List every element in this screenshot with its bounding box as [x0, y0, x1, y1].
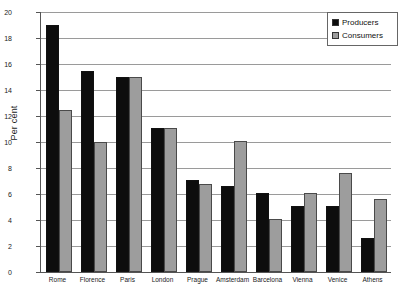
plot-area: [40, 12, 391, 273]
bar-chart: Per cent 02468101214161820 RomeFlorenceP…: [0, 0, 406, 299]
x-tick-label: Prague: [180, 276, 215, 283]
y-tick-label: 14: [0, 87, 12, 94]
bar-consumers-florence: [94, 142, 107, 272]
bar-consumers-athens: [374, 199, 387, 272]
bar-consumers-paris: [129, 77, 142, 272]
bar-consumers-vienna: [304, 193, 317, 272]
y-tick-label: 10: [0, 139, 12, 146]
x-axis-labels: RomeFlorenceParisLondonPragueAmsterdamBa…: [40, 276, 390, 283]
x-tick-label: Paris: [110, 276, 145, 283]
bar-producers-vienna: [291, 206, 304, 272]
bar-group: [76, 12, 111, 272]
bar-group: [41, 12, 76, 272]
x-tick-label: London: [145, 276, 180, 283]
x-tick-label: Venice: [320, 276, 355, 283]
x-tick-label: Amsterdam: [215, 276, 250, 283]
y-tick-label: 4: [0, 217, 12, 224]
bar-consumers-amsterdam: [234, 141, 247, 272]
gridline: [41, 272, 391, 273]
bar-group: [146, 12, 181, 272]
chart-legend: ProducersConsumers: [327, 12, 398, 46]
legend-label: Consumers: [342, 31, 383, 40]
bar-producers-paris: [116, 77, 129, 272]
bar-consumers-barcelona: [269, 219, 282, 272]
bar-group: [356, 12, 391, 272]
bar-producers-barcelona: [256, 193, 269, 272]
bar-groups: [41, 12, 391, 272]
bar-group: [251, 12, 286, 272]
bar-producers-amsterdam: [221, 186, 234, 272]
legend-item-consumers: Consumers: [332, 29, 393, 42]
legend-item-producers: Producers: [332, 16, 393, 29]
y-tick-label: 16: [0, 61, 12, 68]
bar-group: [321, 12, 356, 272]
y-tick-label: 6: [0, 191, 12, 198]
y-tick-label: 12: [0, 113, 12, 120]
x-tick-label: Vienna: [285, 276, 320, 283]
bar-producers-venice: [326, 206, 339, 272]
x-tick-label: Barcelona: [250, 276, 285, 283]
bar-consumers-rome: [59, 110, 72, 273]
y-tick-label: 20: [0, 9, 12, 16]
bar-group: [216, 12, 251, 272]
bar-consumers-london: [164, 128, 177, 272]
y-tick-label: 8: [0, 165, 12, 172]
legend-swatch-icon: [332, 32, 339, 39]
y-tick-label: 18: [0, 35, 12, 42]
y-axis-title: Per cent: [9, 83, 19, 163]
x-tick-label: Rome: [40, 276, 75, 283]
bar-producers-london: [151, 128, 164, 272]
bar-group: [111, 12, 146, 272]
y-tick-label: 0: [0, 269, 12, 276]
legend-swatch-icon: [332, 19, 339, 26]
x-tick-label: Athens: [355, 276, 390, 283]
bar-consumers-venice: [339, 173, 352, 272]
legend-label: Producers: [342, 18, 378, 27]
bar-producers-rome: [46, 25, 59, 272]
bar-producers-athens: [361, 238, 374, 272]
x-tick-label: Florence: [75, 276, 110, 283]
bar-consumers-prague: [199, 184, 212, 272]
bar-producers-florence: [81, 71, 94, 273]
bar-producers-prague: [186, 180, 199, 272]
bar-group: [286, 12, 321, 272]
bar-group: [181, 12, 216, 272]
y-tick-label: 2: [0, 243, 12, 250]
